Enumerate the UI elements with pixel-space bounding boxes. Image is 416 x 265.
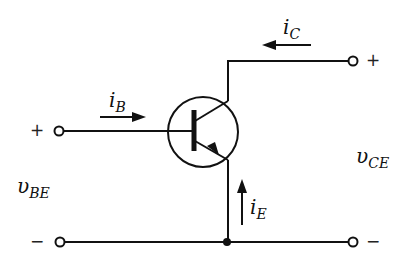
ic-label: iC — [283, 17, 300, 41]
terminal-collector — [349, 57, 358, 66]
vbe-symbol: υ — [17, 174, 29, 198]
vbe-subscript: BE — [29, 185, 50, 201]
vce-subscript: CE — [368, 155, 389, 171]
vce-plus-sign: + — [366, 52, 380, 69]
junction-dot — [223, 238, 231, 246]
collector-lead — [195, 101, 228, 121]
vce-symbol: υ — [356, 144, 368, 168]
terminal-ground-left — [56, 238, 65, 247]
vce-label: υCE — [356, 146, 389, 170]
circuit-schematic — [0, 0, 416, 265]
vbe-plus-sign: + — [30, 122, 44, 139]
ib-subscript: B — [115, 99, 125, 115]
ib-label: iB — [109, 90, 126, 114]
ie-arrowhead-icon — [237, 179, 247, 193]
ib-arrowhead-icon — [132, 112, 146, 122]
ic-subscript: C — [289, 26, 300, 42]
ic-arrowhead-icon — [262, 40, 276, 50]
terminal-base — [55, 127, 64, 136]
bjt-circuit-diagram: iB iC iE υBE υCE + − + − — [0, 0, 416, 265]
vbe-minus-sign: − — [30, 233, 44, 250]
vbe-label: υBE — [17, 176, 50, 200]
ie-subscript: E — [256, 206, 266, 222]
collector-wire — [228, 61, 349, 101]
vce-minus-sign: − — [366, 233, 380, 250]
ie-label: iE — [250, 197, 267, 221]
terminal-ground-right — [349, 238, 358, 247]
